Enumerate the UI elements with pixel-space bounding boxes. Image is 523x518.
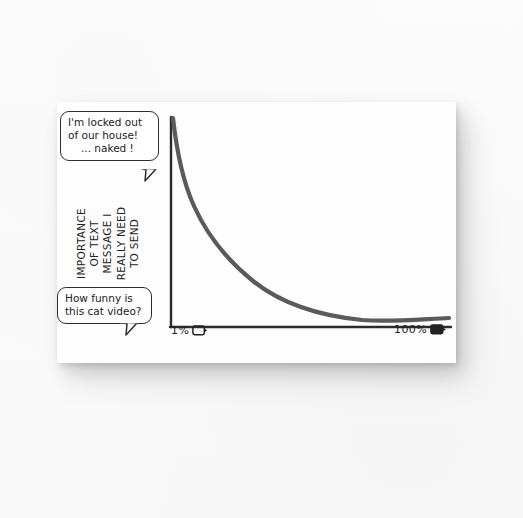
decay-curve <box>173 118 449 321</box>
y-axis-label-line: REALLY NEED <box>114 207 126 281</box>
high-importance-callout: I'm locked out of our house! ... naked ! <box>60 111 159 161</box>
y-axis-label-line: OF TEXT <box>88 220 100 266</box>
x-tick-100-percent: 100% <box>394 323 447 336</box>
battery-full-icon <box>430 324 447 335</box>
callout-line: of our house! <box>68 129 151 142</box>
y-axis-label-line: TO SEND <box>127 219 139 268</box>
callout-line: I'm locked out <box>68 116 151 129</box>
y-axis-label-line: IMPORTANCE <box>75 208 87 279</box>
plot-area: I'm locked out of our house! ... naked !… <box>57 102 456 363</box>
callout-text: I'm locked out of our house! ... naked ! <box>61 112 158 160</box>
comic-card: I'm locked out of our house! ... naked !… <box>57 102 456 363</box>
battery-empty-icon <box>192 325 208 336</box>
y-axis-label-line: MESSAGE I <box>101 213 113 273</box>
speech-tail-icon <box>120 322 138 336</box>
x-tick-1-percent: 1% <box>171 324 208 337</box>
callout-line: ... naked ! <box>68 142 151 155</box>
y-axis-label: IMPORTANCE OF TEXT MESSAGE I REALLY NEED… <box>59 164 177 260</box>
x-tick-label: 1% <box>171 324 189 337</box>
callout-line: this cat video? <box>65 305 144 318</box>
x-tick-label: 100% <box>394 323 427 336</box>
